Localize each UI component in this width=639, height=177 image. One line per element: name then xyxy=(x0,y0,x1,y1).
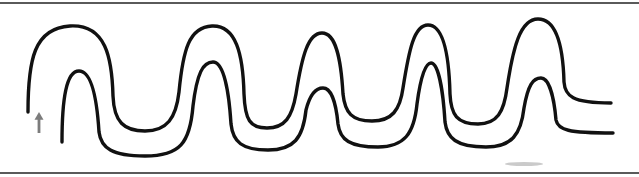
figure-frame: A long serpentine double-line path windi… xyxy=(0,0,639,177)
arrow-shaft xyxy=(38,117,41,133)
bottom-page-smudge xyxy=(505,162,543,166)
path-diagram-canvas xyxy=(0,0,639,177)
